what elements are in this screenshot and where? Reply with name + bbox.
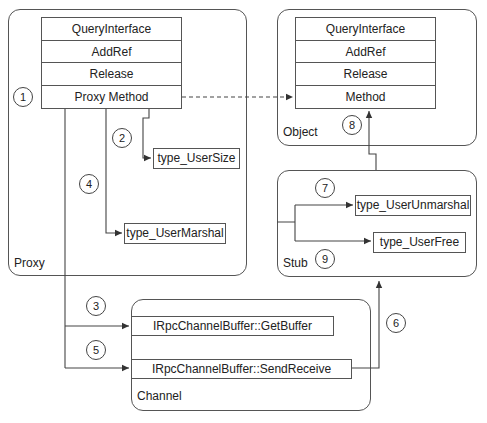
stub-branch-line — [277, 205, 295, 241]
connectors — [0, 0, 487, 423]
step-6-marker: 6 — [386, 313, 406, 333]
step-5-marker: 5 — [86, 340, 106, 360]
object-method-arrow — [369, 111, 376, 170]
usersize-arrow — [143, 109, 151, 158]
step-8-marker: 8 — [342, 115, 362, 135]
step-9-marker: 9 — [315, 249, 335, 269]
step-7-marker: 7 — [315, 178, 335, 198]
step-3-marker: 3 — [86, 296, 106, 316]
step-1-marker: 1 — [13, 87, 33, 107]
step-2-marker: 2 — [112, 128, 132, 148]
stub-call-arrow — [352, 281, 379, 368]
step-4-marker: 4 — [79, 174, 99, 194]
